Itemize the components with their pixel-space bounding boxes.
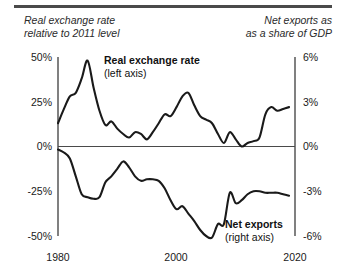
data-lines	[58, 60, 289, 238]
line-net-exports	[58, 149, 289, 238]
plot-canvas	[0, 0, 346, 277]
line-real-exchange-rate	[58, 60, 289, 146]
chart-figure: Real exchange rate relative to 2011 leve…	[0, 0, 346, 277]
